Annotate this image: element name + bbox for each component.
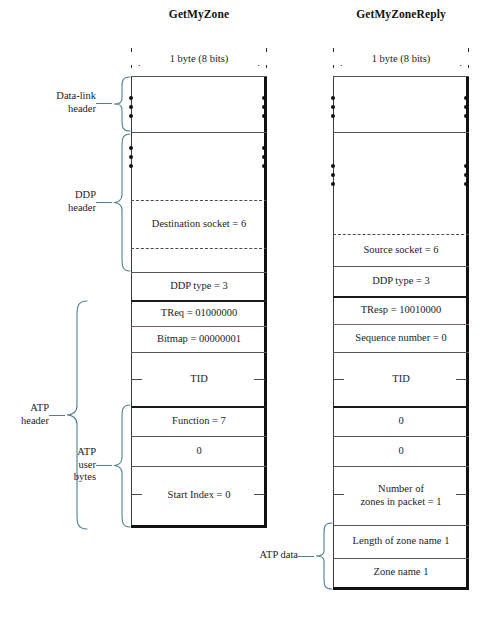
packet-diagram-getmyzonereply: Source socket = 6 DDP type = 3 TResp = 1…: [333, 76, 469, 590]
row-zero-1: 0: [333, 406, 469, 436]
ellipsis-dots-right-ddp: [464, 164, 468, 191]
row-tid-stub-right: [254, 379, 265, 380]
row-ddp-type: DDP type = 3: [131, 272, 267, 300]
brace-stem-atp-data: [298, 556, 314, 557]
brace-atp-user-bytes: [110, 404, 131, 528]
brace-stem-ddp-header: [96, 202, 112, 203]
byte-width-ruler-left: 1 byte (8 bits): [131, 48, 267, 68]
row-datalink-blank-top: [333, 76, 469, 132]
row-tid: TID: [333, 352, 469, 406]
brace-stem-data-link-header: [96, 103, 112, 104]
row-ddp-type: DDP type = 3: [333, 266, 469, 296]
row-tid-stub-right: [456, 379, 467, 380]
row-number-of-zones: Number of zones in packet = 1: [333, 466, 469, 525]
brace-stem-atp-header: [49, 415, 65, 416]
row-start-index-stub-right: [254, 494, 265, 495]
group-label-atp-user-bytes: ATP user bytes: [52, 446, 96, 484]
group-label-atp-data: ATP data: [232, 549, 298, 562]
brace-atp-data: [312, 522, 333, 590]
group-label-atp-header: ATP header: [0, 402, 49, 427]
group-label-ddp-header: DDP header: [30, 189, 96, 214]
row-zero-2: 0: [333, 436, 469, 466]
brace-stem-atp-user-bytes: [96, 465, 112, 466]
row-tresp: TResp = 10010000: [333, 296, 469, 324]
row-sequence-number: Sequence number = 0: [333, 324, 469, 352]
row-ddp-blank-upper: [131, 132, 267, 200]
row-bitmap: Bitmap = 00000001: [131, 326, 267, 352]
row-tid-stub-left: [131, 379, 142, 380]
row-length-of-zone-name: Length of zone name 1: [333, 525, 469, 558]
row-number-of-zones-stub-right: [456, 494, 467, 495]
ellipsis-dots-right-datalink: [262, 96, 266, 123]
brace-data-link-header: [110, 76, 131, 132]
packet-title-getmyzone: GetMyZone: [131, 8, 267, 20]
packet-diagram-getmyzone: Destination socket = 6 DDP type = 3 TReq…: [131, 76, 267, 528]
row-ddp-blank-upper: [333, 132, 469, 234]
ruler-label: 1 byte (8 bits): [333, 52, 469, 65]
ellipsis-dots-right-datalink: [464, 96, 468, 123]
row-source-socket: Source socket = 6: [333, 234, 469, 266]
row-destination-socket: Destination socket = 6: [131, 200, 267, 248]
row-number-of-zones-stub-left: [333, 494, 344, 495]
ellipsis-dots-right-ddp: [262, 146, 266, 173]
row-zone-name: Zone name 1: [333, 558, 469, 587]
row-function: Function = 7: [131, 406, 267, 436]
row-zero: 0: [131, 436, 267, 466]
row-tid: TID: [131, 352, 267, 406]
brace-atp-header: [64, 300, 88, 530]
row-datalink-blank-top: [131, 76, 267, 132]
row-ddp-blank-lower: [131, 248, 267, 272]
row-treq: TReq = 01000000: [131, 300, 267, 326]
ruler-label: 1 byte (8 bits): [131, 52, 267, 65]
row-tid-stub-left: [333, 379, 344, 380]
row-start-index-stub-left: [131, 494, 142, 495]
ellipsis-dots-left-datalink: [331, 96, 335, 123]
packet-bottom-edge-heavy: [131, 525, 267, 528]
row-start-index: Start Index = 0: [131, 466, 267, 525]
group-label-data-link-header: Data-link header: [30, 90, 96, 115]
byte-width-ruler-right: 1 byte (8 bits): [333, 48, 469, 68]
packet-title-getmyzonereply: GetMyZoneReply: [333, 8, 469, 20]
ellipsis-dots-left-ddp: [331, 164, 335, 191]
packet-bottom-edge-heavy: [333, 587, 469, 590]
figure-canvas: GetMyZone GetMyZoneReply 1 byte (8 bits)…: [0, 0, 483, 622]
brace-ddp-header: [110, 133, 131, 272]
